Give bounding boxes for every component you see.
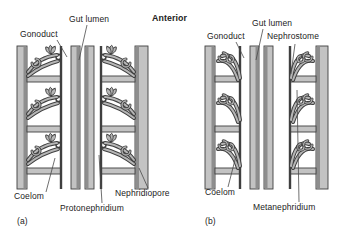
gonoduct-label-b: Gonoduct: [207, 32, 245, 41]
panel-a-artwork: [17, 45, 148, 189]
gut-lumen-label-b: Gut lumen: [252, 19, 292, 28]
panel-b-artwork: [205, 46, 328, 189]
coelom-label-b: Coelom: [205, 188, 235, 197]
anterior-label: Anterior: [152, 14, 187, 23]
nephridiopore-label: Nephridiopore: [115, 189, 170, 198]
coelom-label-a: Coelom: [14, 192, 44, 201]
protonephridium-label: Protonephridium: [60, 204, 124, 213]
gonoduct-label-a: Gonoduct: [20, 30, 58, 39]
metanephridium-label: Metanephridium: [253, 203, 315, 212]
nephrostome-label: Nephrostome: [267, 32, 319, 41]
label-leader-lines: [46, 25, 299, 203]
gut-lumen-label-a: Gut lumen: [69, 15, 109, 24]
panel-b-tag: (b): [205, 217, 216, 226]
panel-a-tag: (a): [17, 217, 28, 226]
figure-nephridia-comparison: Anterior Gut lumen Gonoduct Coelom Nephr…: [0, 0, 354, 242]
